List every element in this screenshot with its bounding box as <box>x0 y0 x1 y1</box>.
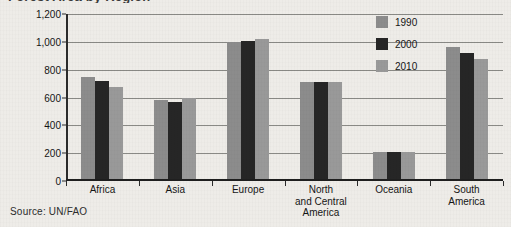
x-axis-category-label-line: and Central <box>295 196 347 208</box>
x-axis-category-label: Northand CentralAmerica <box>295 184 347 219</box>
x-axis-category-label-line: Africa <box>90 184 116 196</box>
source-note: Source: UN/FAO <box>10 206 87 217</box>
plot-area: 02004006008001,0001,200 <box>66 14 503 181</box>
y-axis-tick-labels: 02004006008001,0001,200 <box>66 14 503 181</box>
x-axis-category-label-line: North <box>295 184 347 196</box>
y-axis-tick-label: 0 <box>55 176 61 187</box>
forest-area-bar-chart: Forest Area by Region Total Forest Area … <box>0 0 511 227</box>
x-axis-category-label: Europe <box>232 184 264 196</box>
y-axis-line <box>66 14 68 181</box>
legend-label: 2010 <box>395 61 417 72</box>
x-axis-category-label-line: Oceania <box>375 184 412 196</box>
x-axis-category-label-line: America <box>295 207 347 219</box>
legend-swatch <box>376 38 388 50</box>
x-axis-category-label-line: Europe <box>232 184 264 196</box>
x-axis-category-label: Africa <box>90 184 116 196</box>
y-axis-tick-label: 400 <box>44 120 61 131</box>
y-axis-tick-label: 1,000 <box>36 36 61 47</box>
x-axis-category-label: Asia <box>166 184 185 196</box>
y-axis-tick-label: 1,200 <box>36 9 61 20</box>
y-axis-tick-label: 600 <box>44 92 61 103</box>
chart-title-partial: Forest Area by Region <box>8 0 150 3</box>
y-axis-tick-label: 800 <box>44 64 61 75</box>
legend-label: 2000 <box>395 39 417 50</box>
y-axis-title: Total Forest Area (in million hectares) <box>2 0 28 36</box>
x-axis-category-label: Oceania <box>375 184 412 196</box>
legend-item: 2000 <box>376 38 417 50</box>
legend-swatch <box>376 16 388 28</box>
y-axis-tick-label: 200 <box>44 148 61 159</box>
x-axis-category-labels: AfricaAsiaEuropeNorthand CentralAmericaO… <box>66 184 503 226</box>
legend-swatch <box>376 60 388 72</box>
x-axis-category-label-line: America <box>448 196 485 208</box>
x-axis-category-label: SouthAmerica <box>448 184 485 207</box>
chart-legend: 199020002010 <box>376 16 417 72</box>
legend-item: 1990 <box>376 16 417 28</box>
x-axis-category-label-line: Asia <box>166 184 185 196</box>
legend-item: 2010 <box>376 60 417 72</box>
x-axis-category-label-line: South <box>448 184 485 196</box>
x-axis-tick <box>503 181 504 186</box>
legend-label: 1990 <box>395 17 417 28</box>
